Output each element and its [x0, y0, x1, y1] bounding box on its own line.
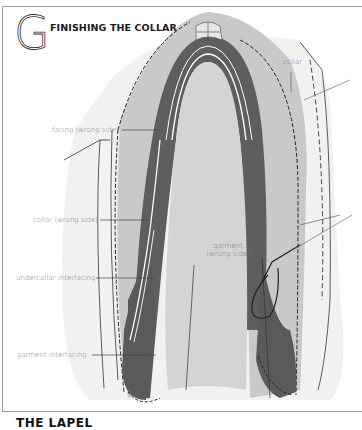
label-collar-wrong-side: collar (wrong side) [33, 216, 98, 224]
label-collar: collar [283, 58, 302, 66]
label-garment-interfacing: garment interfacing [17, 351, 86, 359]
label-facing: facing (wrong side) [52, 126, 119, 134]
next-section-heading: THE LAPEL [16, 416, 93, 430]
section-letter: G [14, 10, 50, 56]
section-title: FINISHING THE COLLAR [50, 22, 177, 33]
label-undercollar-interfacing: undercollar interfacing [16, 274, 95, 282]
label-garment-line1: garment [200, 242, 256, 250]
label-garment-line2: (wrong side) [200, 250, 256, 258]
label-garment: garment (wrong side) [200, 242, 256, 258]
